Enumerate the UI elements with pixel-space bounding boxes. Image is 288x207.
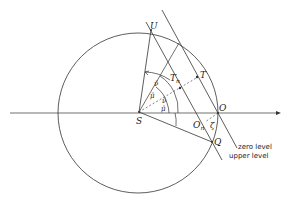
point-s — [138, 111, 140, 113]
arc-outer — [145, 72, 170, 80]
label-q: Q — [214, 137, 222, 147]
label-mu-2: μ̄ — [161, 105, 166, 113]
label-nu-1: ν̄ — [154, 80, 159, 88]
label-zeta: ζ — [210, 121, 215, 130]
label-on: On — [193, 120, 204, 131]
axis-arrow-icon — [276, 111, 281, 115]
label-tn: Tn — [170, 73, 180, 84]
point-q — [211, 141, 213, 143]
arc-mu2 — [167, 103, 169, 113]
label-nu-2: ν̄ — [162, 97, 167, 105]
arc-lower — [175, 113, 176, 126]
label-s: S — [136, 116, 142, 126]
point-tn — [179, 87, 181, 89]
orbit-diagram: S O U Q T Tn On ν̄ μ̄ ν̄ μ̄ ζ zero level… — [0, 0, 288, 207]
point-t — [196, 76, 198, 78]
label-zero-level: zero level — [238, 143, 272, 151]
label-o: O — [219, 103, 227, 113]
upper-level-line — [146, 22, 222, 160]
arc-arrow-icon — [145, 71, 149, 75]
label-u: U — [150, 21, 158, 31]
label-mu-1: μ̄ — [150, 92, 155, 100]
label-t: T — [200, 70, 207, 80]
label-upper-level: upper level — [229, 152, 268, 160]
